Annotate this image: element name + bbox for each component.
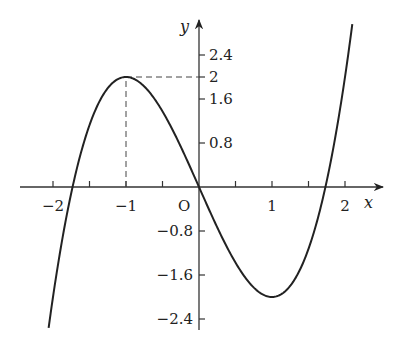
- y-tick-label: −0.8: [157, 222, 193, 240]
- y-axis-label: y: [179, 17, 190, 36]
- y-tick-label: −1.6: [157, 266, 193, 284]
- y-tick-label: 1.6: [209, 90, 233, 108]
- y-tick-label: 2.4: [209, 46, 233, 64]
- y-tick-label: −2.4: [157, 310, 193, 328]
- function-graph: −2−1122.421.60.8−0.8−1.6−2.4 x y O: [0, 0, 394, 348]
- x-tick-label: −1: [115, 197, 137, 215]
- guide-lines: [126, 77, 199, 187]
- x-tick-label: −2: [42, 197, 64, 215]
- x-tick-label: 2: [340, 197, 350, 215]
- x-tick-label: 1: [267, 197, 277, 215]
- x-axis-label: x: [364, 193, 373, 212]
- y-tick-label: 2: [209, 68, 219, 86]
- y-tick-label: 0.8: [209, 134, 233, 152]
- origin-label: O: [178, 197, 190, 215]
- function-curve: [49, 24, 353, 328]
